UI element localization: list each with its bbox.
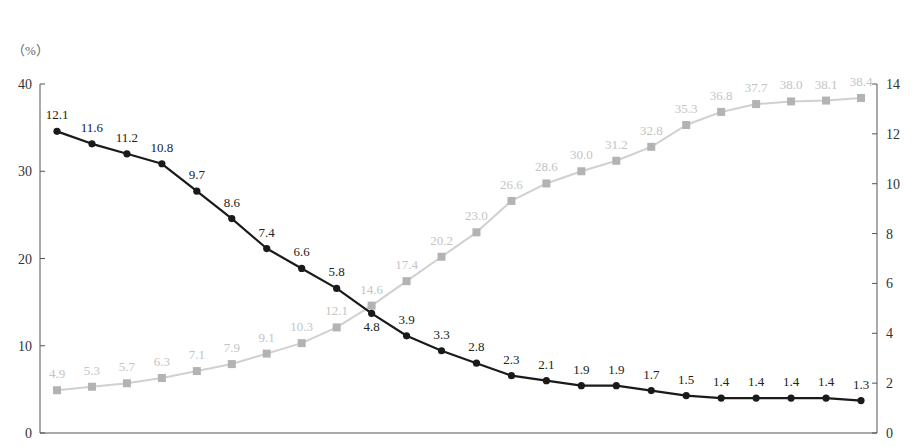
- data-point-circle: [508, 372, 515, 379]
- left-tick-label: 0: [25, 426, 32, 441]
- data-point-square: [822, 97, 830, 105]
- data-point-square: [438, 253, 446, 261]
- data-label: 3.9: [398, 312, 414, 327]
- data-point-square: [717, 108, 725, 116]
- data-label: 3.3: [433, 327, 449, 342]
- data-point-circle: [438, 347, 445, 354]
- data-label: 17.4: [395, 257, 418, 272]
- data-label: 1.4: [713, 374, 730, 389]
- data-label: 10.3: [290, 319, 313, 334]
- data-point-square: [612, 157, 620, 165]
- data-point-square: [158, 374, 166, 382]
- data-label: 2.1: [538, 357, 554, 372]
- data-point-square: [472, 228, 480, 236]
- data-label: 7.9: [224, 340, 240, 355]
- data-point-circle: [333, 285, 340, 292]
- data-label: 32.8: [640, 123, 663, 138]
- data-label: 8.6: [224, 195, 241, 210]
- data-label: 2.3: [503, 352, 519, 367]
- left-tick-label: 30: [18, 164, 32, 179]
- data-point-square: [88, 383, 96, 391]
- dual-axis-line-chart: （%） 01020304002468101214 4.95.35.76.37.1…: [0, 0, 915, 447]
- right-tick-label: 6: [886, 276, 893, 291]
- data-label: 1.4: [748, 374, 765, 389]
- data-point-square: [682, 121, 690, 129]
- data-label: 38.1: [815, 77, 838, 92]
- right-tick-label: 14: [886, 77, 900, 92]
- data-label: 12.1: [46, 107, 69, 122]
- data-point-square: [228, 360, 236, 368]
- data-point-square: [403, 277, 411, 285]
- data-point-circle: [263, 245, 270, 252]
- data-point-square: [507, 197, 515, 205]
- data-point-circle: [683, 392, 690, 399]
- right-tick-label: 10: [886, 177, 900, 192]
- axes: 01020304002468101214: [18, 77, 900, 441]
- data-point-square: [193, 367, 201, 375]
- data-label: 30.0: [570, 147, 593, 162]
- data-label: 31.2: [605, 137, 628, 152]
- data-point-circle: [298, 265, 305, 272]
- data-point-circle: [543, 377, 550, 384]
- data-label: 6.3: [154, 354, 170, 369]
- data-label: 2.8: [468, 339, 484, 354]
- data-point-circle: [648, 387, 655, 394]
- data-label: 10.8: [150, 140, 173, 155]
- left-tick-label: 10: [18, 339, 32, 354]
- data-point-circle: [193, 188, 200, 195]
- data-point-square: [333, 323, 341, 331]
- data-label: 1.9: [573, 362, 589, 377]
- data-point-circle: [53, 128, 60, 135]
- data-point-circle: [578, 382, 585, 389]
- series-gray-path: [57, 98, 861, 390]
- data-label: 14.6: [360, 282, 383, 297]
- data-point-circle: [718, 395, 725, 402]
- data-point-square: [53, 386, 61, 394]
- data-point-circle: [158, 160, 165, 167]
- data-label: 1.4: [783, 374, 800, 389]
- data-point-circle: [857, 397, 864, 404]
- data-point-circle: [822, 395, 829, 402]
- data-label: 12.1: [325, 303, 348, 318]
- data-label: 9.1: [259, 330, 275, 345]
- left-tick-label: 20: [18, 252, 32, 267]
- data-label: 11.2: [116, 130, 138, 145]
- data-label: 5.3: [84, 363, 100, 378]
- data-point-square: [647, 143, 655, 151]
- data-point-circle: [753, 395, 760, 402]
- data-label: 1.4: [818, 374, 835, 389]
- data-point-square: [368, 302, 376, 310]
- data-label: 6.6: [294, 244, 311, 259]
- data-point-circle: [123, 150, 130, 157]
- data-point-square: [752, 100, 760, 108]
- data-label: 36.8: [710, 88, 733, 103]
- data-point-square: [123, 379, 131, 387]
- data-label: 23.0: [465, 208, 488, 223]
- data-label: 9.7: [189, 167, 206, 182]
- series-gray-line: 4.95.35.76.37.17.99.110.312.114.617.420.…: [49, 74, 873, 394]
- data-label: 1.3: [853, 377, 869, 392]
- data-point-circle: [368, 310, 375, 317]
- data-point-square: [298, 339, 306, 347]
- right-tick-label: 2: [886, 376, 893, 391]
- data-label: 1.5: [678, 372, 694, 387]
- data-label: 26.6: [500, 177, 523, 192]
- data-label: 7.1: [189, 347, 205, 362]
- left-axis-unit-label: （%）: [12, 43, 49, 58]
- data-point-square: [577, 167, 585, 175]
- series-black-path: [57, 131, 861, 400]
- data-point-circle: [787, 395, 794, 402]
- data-label: 38.4: [850, 74, 873, 89]
- data-point-square: [787, 97, 795, 105]
- data-point-circle: [88, 140, 95, 147]
- right-tick-label: 0: [886, 426, 893, 441]
- data-label: 5.8: [329, 264, 345, 279]
- data-label: 5.7: [119, 359, 136, 374]
- data-point-square: [857, 94, 865, 102]
- data-point-circle: [228, 215, 235, 222]
- right-tick-label: 8: [886, 227, 893, 242]
- data-label: 38.0: [780, 77, 803, 92]
- data-point-circle: [403, 332, 410, 339]
- data-label: 20.2: [430, 233, 453, 248]
- data-point-circle: [473, 360, 480, 367]
